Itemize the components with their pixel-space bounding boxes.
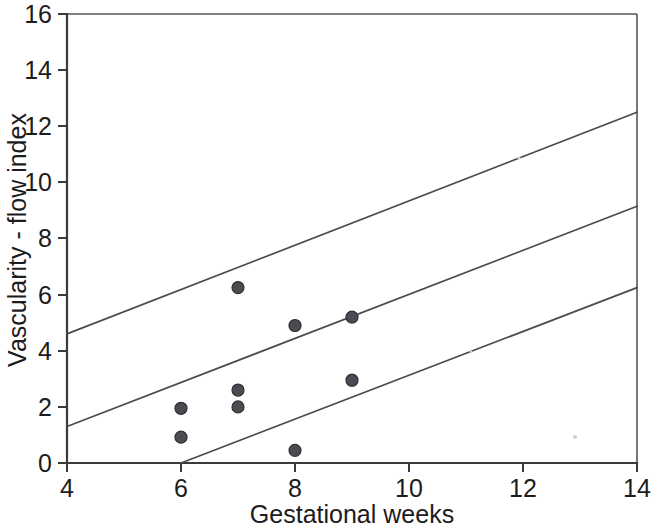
data-point: [232, 401, 244, 413]
y-tick-label-0: 0: [38, 449, 52, 477]
data-point: [175, 402, 187, 414]
regression-lines-layer: [67, 112, 637, 463]
y-tick-label-4: 4: [38, 337, 52, 365]
lower-confidence-line: [181, 288, 637, 463]
x-tick-label-4: 4: [60, 474, 74, 502]
x-tick-label-8: 8: [288, 474, 302, 502]
y-tick-label-8: 8: [38, 224, 52, 252]
data-point: [289, 444, 301, 456]
data-point: [175, 431, 187, 443]
data-point: [346, 311, 358, 323]
plot-canvas: 16 14 12 10 8 6 4 2 0 4 6 8 10 12 14 Ges…: [0, 0, 664, 528]
x-tick-label-14: 14: [623, 474, 651, 502]
data-point: [289, 319, 301, 331]
scan-speck: [573, 435, 577, 439]
y-tick-label-14: 14: [24, 56, 52, 84]
scan-speck: [517, 156, 520, 159]
y-axis-title: Vascularity - flow index: [3, 113, 31, 367]
scan-artifacts: [470, 156, 577, 439]
y-axis: [58, 14, 67, 463]
x-tick-label-10: 10: [395, 474, 423, 502]
upper-confidence-line: [67, 112, 637, 334]
x-tick-label-12: 12: [509, 474, 537, 502]
x-axis: [67, 463, 637, 472]
x-tick-labels: 4 6 8 10 12 14: [60, 474, 651, 502]
scatter-plot-figure: 16 14 12 10 8 6 4 2 0 4 6 8 10 12 14 Ges…: [0, 0, 664, 528]
data-point: [346, 374, 358, 386]
scan-speck: [470, 351, 473, 354]
x-axis-title: Gestational weeks: [250, 500, 454, 528]
y-tick-label-6: 6: [38, 281, 52, 309]
data-point: [232, 282, 244, 294]
y-tick-label-16: 16: [24, 0, 52, 28]
data-point: [232, 384, 244, 396]
x-tick-label-6: 6: [174, 474, 188, 502]
y-tick-label-2: 2: [38, 393, 52, 421]
